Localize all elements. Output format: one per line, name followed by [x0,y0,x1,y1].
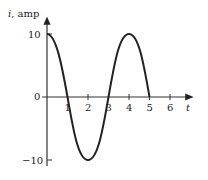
x-tick-1: 1 [65,102,71,113]
current-waveform-chart: i, amp 10 0 −10 1 2 3 4 5 6 t [0,0,208,180]
x-tick-2: 2 [85,102,91,113]
x-tick-4: 4 [126,102,132,113]
y-tick-10: 10 [28,29,41,40]
x-tick-5: 5 [147,102,153,113]
x-tick-6: 6 [167,102,173,113]
y-tick-neg10: −10 [22,155,43,166]
x-axis-label: t [186,102,191,113]
y-axis-label: i, amp [8,8,39,19]
x-tick-3: 3 [106,102,112,113]
y-tick-0: 0 [34,91,40,102]
